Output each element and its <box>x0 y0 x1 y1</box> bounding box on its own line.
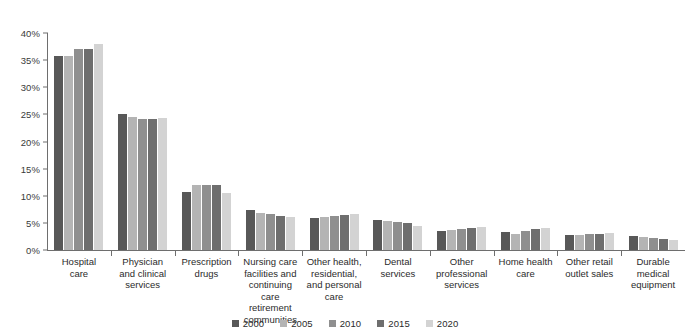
legend-label: 2010 <box>340 318 362 329</box>
y-axis-tick-label: 15% <box>0 163 47 174</box>
bar <box>158 118 167 250</box>
x-axis-label-line: equipment <box>621 279 685 291</box>
x-axis-label-line: services <box>430 279 494 291</box>
legend-label: 2015 <box>388 318 410 329</box>
x-axis-category-label: Nursing carefacilities andcontinuingcare… <box>238 256 302 325</box>
x-axis-label-line: care <box>47 268 111 280</box>
x-axis-label-line: Durable <box>621 256 685 268</box>
x-axis-category-label: Prescriptiondrugs <box>175 256 239 279</box>
bar <box>246 210 255 250</box>
x-axis-category-label: Durablemedicalequipment <box>621 256 685 291</box>
bar <box>94 44 103 250</box>
x-axis-label-line: care <box>302 291 366 303</box>
bar <box>222 193 231 250</box>
bar-group <box>494 33 558 250</box>
bar <box>639 237 648 250</box>
x-axis-label-line: Other retail <box>557 256 621 268</box>
legend-label: 2020 <box>437 318 459 329</box>
legend-label: 2005 <box>291 318 313 329</box>
bar <box>605 233 614 250</box>
bar <box>84 49 93 250</box>
y-axis-tick-label: 35% <box>0 55 47 66</box>
legend-item[interactable]: 2015 <box>377 318 410 329</box>
legend-item[interactable]: 2000 <box>232 318 265 329</box>
x-axis-label-line: services <box>366 268 430 280</box>
y-axis-tick-label: 0% <box>0 245 47 256</box>
bar <box>457 229 466 250</box>
x-axis-label-line: Home health <box>494 256 558 268</box>
x-axis-label-line: Other <box>430 256 494 268</box>
bar-group <box>557 33 621 250</box>
bar <box>340 215 349 250</box>
x-axis-label-line: outlet sales <box>557 268 621 280</box>
bar <box>437 231 446 250</box>
x-axis-label-line: professional <box>430 268 494 280</box>
bar <box>310 218 319 250</box>
bar <box>511 234 520 250</box>
bar <box>373 220 382 250</box>
x-axis-category-label: Physicianand clinicalservices <box>111 256 175 291</box>
y-axis-tick-label: 30% <box>0 82 47 93</box>
legend-item[interactable]: 2010 <box>329 318 362 329</box>
bar <box>669 240 678 250</box>
bar <box>182 192 191 250</box>
bar <box>286 217 295 250</box>
bar <box>54 56 63 250</box>
legend-item[interactable]: 2005 <box>280 318 313 329</box>
bar-group <box>302 33 366 250</box>
y-axis-tick-label: 40% <box>0 28 47 39</box>
bar <box>330 216 339 250</box>
y-axis-tick-label: 5% <box>0 217 47 228</box>
bar <box>192 185 201 250</box>
x-axis-label-line: continuing <box>238 279 302 291</box>
bar <box>595 234 604 250</box>
bar <box>138 119 147 250</box>
bar <box>575 235 584 250</box>
chart-legend: 20002005201020152020 <box>0 318 690 329</box>
bar <box>403 223 412 250</box>
bar <box>541 228 550 250</box>
bar <box>467 228 476 250</box>
legend-item[interactable]: 2020 <box>426 318 459 329</box>
bar <box>629 236 638 250</box>
legend-swatch-icon <box>232 320 239 327</box>
legend-swatch-icon <box>377 320 384 327</box>
bar <box>565 235 574 250</box>
bar-group <box>47 33 111 250</box>
y-axis-tick-label: 25% <box>0 109 47 120</box>
x-axis-label-line: services <box>111 279 175 291</box>
x-axis-label-line: medical <box>621 268 685 280</box>
x-axis-label-line: drugs <box>175 268 239 280</box>
bar <box>649 238 658 250</box>
x-axis-label-line: Other health, <box>302 256 366 268</box>
bar <box>521 231 530 250</box>
bar <box>585 234 594 250</box>
bar <box>447 230 456 250</box>
x-axis-label-line: care retirement <box>238 291 302 314</box>
bar <box>501 232 510 250</box>
bar <box>148 119 157 250</box>
x-axis-label-line: Physician <box>111 256 175 268</box>
bar-group <box>621 33 685 250</box>
legend-swatch-icon <box>280 320 287 327</box>
x-axis-label-line: and clinical <box>111 268 175 280</box>
bar-group <box>175 33 239 250</box>
bar-group <box>238 33 302 250</box>
y-axis-tick-label: 10% <box>0 190 47 201</box>
legend-label: 2000 <box>243 318 265 329</box>
bar-group <box>430 33 494 250</box>
bar <box>276 216 285 250</box>
bar-group <box>111 33 175 250</box>
x-axis-label-line: facilities and <box>238 268 302 280</box>
bar-group <box>366 33 430 250</box>
bar-chart: 0%5%10%15%20%25%30%35%40% HospitalcarePh… <box>0 0 690 335</box>
plot-area <box>47 33 685 250</box>
bar <box>202 185 211 250</box>
bar <box>64 56 73 250</box>
x-axis-label-line: Hospital <box>47 256 111 268</box>
legend-swatch-icon <box>329 320 336 327</box>
bar <box>531 229 540 250</box>
x-axis-label-line: care <box>494 268 558 280</box>
x-axis-label-line: Dental <box>366 256 430 268</box>
x-axis-category-label: Other retailoutlet sales <box>557 256 621 279</box>
